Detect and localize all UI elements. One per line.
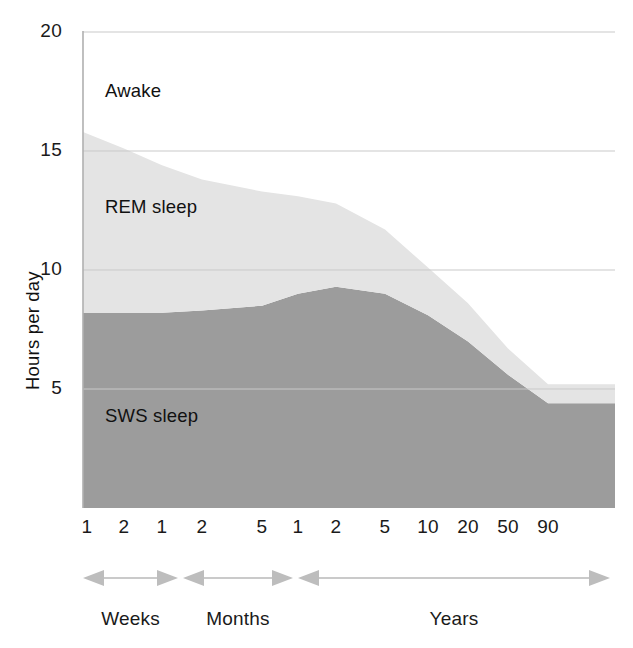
period-arrow-years — [298, 570, 610, 586]
area-label-sws-sleep: SWS sleep — [105, 405, 198, 427]
x-tick-1-month: 1 — [142, 516, 182, 538]
x-tick-2-months: 2 — [182, 516, 222, 538]
period-label-months: Months — [183, 608, 293, 630]
sleep-hours-area-chart: 20 15 10 5 Hours per day Awake REM sleep… — [0, 0, 633, 648]
chart-plot-area — [0, 0, 633, 648]
x-tick-5-years: 5 — [365, 516, 405, 538]
x-tick-1-week: 1 — [67, 516, 107, 538]
x-tick-50-years: 50 — [488, 516, 528, 538]
period-arrow-months — [183, 570, 293, 586]
y-tick-15: 15 — [22, 139, 62, 161]
x-tick-20-years: 20 — [448, 516, 488, 538]
series-sws-sleep-area — [83, 287, 615, 508]
period-label-weeks: Weeks — [83, 608, 178, 630]
y-tick-20: 20 — [22, 20, 62, 42]
x-tick-5-months: 5 — [242, 516, 282, 538]
area-label-awake: Awake — [105, 80, 161, 102]
area-label-rem-sleep: REM sleep — [105, 196, 197, 218]
y-axis-title: Hours per day — [22, 271, 44, 390]
x-tick-1-year: 1 — [278, 516, 318, 538]
x-tick-90-years: 90 — [528, 516, 568, 538]
x-tick-2-weeks: 2 — [104, 516, 144, 538]
period-arrow-weeks — [83, 570, 178, 586]
period-label-years: Years — [298, 608, 610, 630]
x-tick-2-years: 2 — [316, 516, 356, 538]
x-tick-10-years: 10 — [408, 516, 448, 538]
